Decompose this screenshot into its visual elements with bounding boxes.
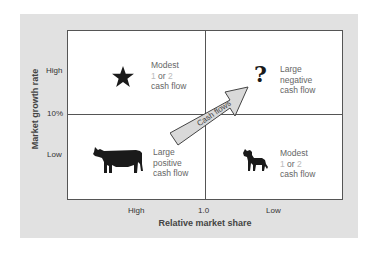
- x-tick-low: Low: [266, 206, 281, 216]
- dog-icon: [243, 148, 269, 172]
- quadrant-question-text: Large negative cash flow: [280, 64, 315, 96]
- quadrant-dog-text: Modest 1 or 2 cash flow: [280, 148, 315, 180]
- y-tick-high: High: [46, 66, 62, 76]
- x-tick-1-0: 1.0: [198, 206, 209, 216]
- cow-icon: [92, 144, 145, 175]
- y-tick-10pct: 10%: [47, 109, 63, 119]
- quadrant-cow-text: Large positive cash flow: [153, 147, 188, 179]
- y-tick-low: Low: [47, 150, 62, 160]
- star-icon: [112, 66, 134, 87]
- question-mark-icon: ?: [254, 62, 267, 86]
- y-axis-title: Market growth rate: [30, 59, 40, 159]
- x-tick-high: High: [128, 206, 144, 216]
- x-axis-title: Relative market share: [120, 218, 290, 228]
